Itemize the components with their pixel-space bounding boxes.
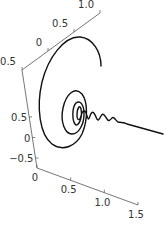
z-tick-label: 0	[24, 133, 30, 144]
z-tick-label: 0.5	[11, 112, 27, 123]
y-tick-label: 0	[36, 37, 42, 48]
3d-spiral-plot: −0.500.51.00.50−0.500.51.01.5	[0, 0, 166, 227]
y-tick-label: −0.5	[0, 56, 16, 67]
z-tick-label: −0.5	[9, 153, 33, 164]
y-tick-label: 0.5	[52, 18, 68, 29]
spiral-curve	[39, 37, 163, 148]
y-tick-label: 1.0	[78, 0, 94, 10]
x-tick-label: 1.0	[94, 197, 110, 208]
x-tick-label: 0.5	[61, 184, 77, 195]
x-tick-label: 1.5	[128, 209, 144, 220]
x-tick-label: 0	[32, 172, 38, 183]
x-axis-line	[37, 168, 138, 205]
